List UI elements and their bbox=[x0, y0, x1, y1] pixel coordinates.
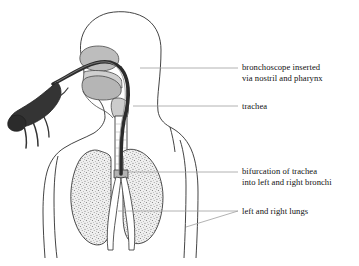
bronchoscope-cable-1 bbox=[24, 126, 26, 148]
leader-line-lungs-angled bbox=[186, 211, 238, 227]
bronchoscope-label-line-2: via nostril and pharynx bbox=[242, 73, 323, 84]
bronchoscope-cable-3 bbox=[44, 117, 49, 137]
trachea-label: trachea bbox=[242, 101, 267, 112]
anatomy-illustration bbox=[0, 0, 359, 266]
right-armpit-outline bbox=[170, 127, 175, 152]
right-torso-outline bbox=[180, 140, 186, 258]
bifurcation-label: bifurcation of trachea into left and rig… bbox=[242, 166, 332, 188]
bronchoscopy-diagram: bronchoscope inserted via nostril and ph… bbox=[0, 0, 359, 266]
left-torso-outline bbox=[54, 156, 58, 258]
bronchoscope-label: bronchoscope inserted via nostril and ph… bbox=[242, 62, 323, 84]
neck-front-outline bbox=[64, 118, 105, 148]
bronchoscope-cable-2 bbox=[33, 122, 38, 146]
right-lung bbox=[71, 150, 111, 245]
bifurcation-label-line-2: into left and right bronchi bbox=[242, 177, 332, 188]
lungs-label: left and right lungs bbox=[242, 206, 308, 217]
left-shoulder-outline bbox=[43, 148, 64, 258]
bifurcation-label-line-1: bifurcation of trachea bbox=[242, 166, 332, 177]
trachea-label-line-1: trachea bbox=[242, 101, 267, 112]
lungs-label-line-1: left and right lungs bbox=[242, 206, 308, 217]
bronchoscope-grip bbox=[8, 115, 26, 131]
bronchoscope-label-line-1: bronchoscope inserted bbox=[242, 62, 323, 73]
